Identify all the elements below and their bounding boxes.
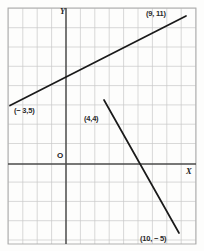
graph-canvas [0, 0, 204, 251]
point-label-9-11: (9, 11) [146, 10, 166, 18]
origin-label: O [57, 152, 63, 160]
point-label-4-4: (4,4) [84, 115, 98, 123]
coordinate-plane-figure: (9, 11) (− 3,5) (4,4) (10, − 5) Y X O [0, 0, 204, 251]
point-label-neg3-5: (− 3,5) [14, 107, 35, 115]
plot-background [8, 8, 196, 244]
point-label-10-neg5: (10, − 5) [140, 235, 166, 243]
y-axis-label: Y [60, 7, 65, 16]
x-axis-label: X [186, 167, 192, 176]
